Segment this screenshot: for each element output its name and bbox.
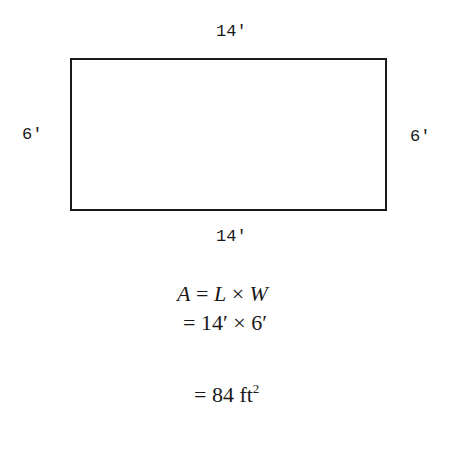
left-width-label: 6' <box>22 126 42 143</box>
area-result: = 84 ft2 <box>183 360 259 406</box>
area-substitution: = 14′ × 6′ <box>183 312 267 334</box>
width-variable: W <box>250 281 268 306</box>
top-length-label: 14' <box>216 23 247 40</box>
area-variable: A <box>177 281 190 306</box>
rectangle-shape <box>70 58 387 211</box>
area-formula: A = L × W <box>166 261 268 305</box>
area-result-exponent: 2 <box>253 381 260 396</box>
area-result-value: = 84 ft <box>194 382 253 407</box>
length-variable: L <box>214 281 226 306</box>
times-sign: × <box>226 281 249 306</box>
right-width-label: 6' <box>410 128 430 145</box>
equals-sign: = <box>190 281 213 306</box>
bottom-length-label: 14' <box>216 228 247 245</box>
